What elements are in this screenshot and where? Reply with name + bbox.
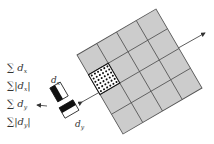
feature-sum-dy: ∑ dy [7,98,27,113]
label-dx: dx [51,74,60,89]
descriptor-grid [77,9,202,134]
subscript: x [24,67,27,74]
label-dy: dy [75,118,84,133]
feature-sum-abs-dx: ∑|dx| [7,80,31,95]
feature-sum-dx: ∑ dx [7,62,27,77]
haar-wavelet-dy [59,100,79,118]
diagram-graphics [0,0,214,144]
subscript: y [24,103,27,110]
sum-symbol: ∑ [7,98,14,109]
abs-close: | [27,80,30,91]
output-arrow [37,105,47,106]
feature-sum-abs-dy: ∑|dy| [7,116,31,131]
sum-symbol: ∑ [7,62,14,73]
surf-descriptor-diagram: ∑ dx ∑|dx| ∑ dy ∑|dy| dx dy [0,0,214,144]
subscript: y [81,123,84,130]
subscript: x [57,79,60,86]
abs-close: | [27,116,30,127]
